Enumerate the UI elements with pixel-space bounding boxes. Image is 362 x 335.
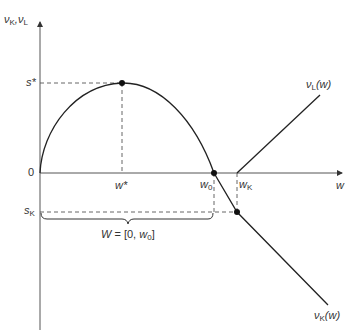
nu-k-curve: [40, 83, 328, 305]
y-axis-label: νK,νL: [4, 14, 28, 27]
set-brace: [41, 213, 213, 224]
s-star-label: s*: [26, 77, 36, 88]
w-star-label: w*: [115, 180, 127, 191]
peak-point: [119, 80, 125, 86]
sk-point: [234, 209, 240, 215]
s-k-label: sK: [24, 205, 35, 218]
nu-k-label: νK(w): [314, 310, 340, 323]
origin-label: 0: [28, 167, 34, 178]
x-axis-label: w: [336, 180, 344, 191]
wk-label: wK: [239, 179, 252, 192]
nu-l-line: [237, 95, 320, 173]
w0-label: w0: [200, 179, 212, 192]
nu-l-label: νL(w): [306, 79, 331, 92]
set-label: W = [0, w0]: [101, 229, 155, 242]
diagram-canvas: [0, 0, 362, 335]
w0-point: [211, 170, 217, 176]
